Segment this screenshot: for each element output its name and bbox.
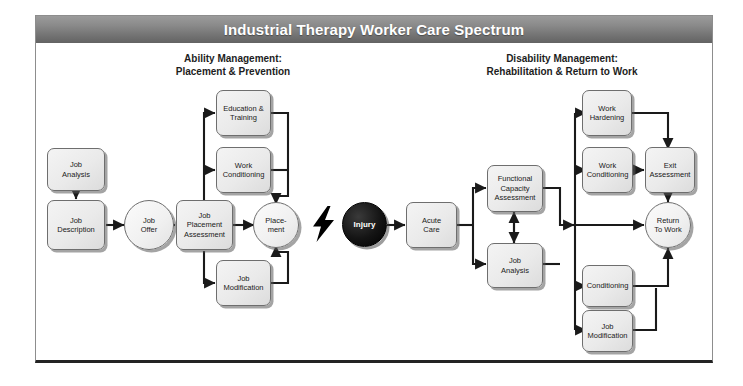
node-acute-care-label: AcuteCare xyxy=(420,216,443,235)
disability-management-line1: Disability Management: xyxy=(432,52,692,65)
node-job-analysis-right[interactable]: JobAnalysis xyxy=(487,243,543,288)
node-functional-capacity-assessment[interactable]: FunctionalCapacityAssessment xyxy=(487,165,543,212)
node-job-offer-label: JobOffer xyxy=(139,216,160,235)
node-conditioning-label: Conditioning xyxy=(585,281,631,291)
disability-management-line2: Rehabilitation & Return to Work xyxy=(432,65,692,78)
ability-management-line2: Placement & Prevention xyxy=(118,65,348,78)
node-job-description[interactable]: JobDescription xyxy=(47,200,105,250)
node-acute-care[interactable]: AcuteCare xyxy=(406,202,457,248)
node-job-modification-left-label: JobModification xyxy=(221,274,265,293)
node-exit-assessment-label: ExitAssessment xyxy=(648,161,693,180)
section-header-ability-management: Ability Management: Placement & Preventi… xyxy=(118,52,348,78)
lightning-bolt-icon xyxy=(310,206,338,242)
node-work-hardening[interactable]: WorkHardening xyxy=(582,90,632,136)
page-title: Industrial Therapy Worker Care Spectrum xyxy=(36,16,712,43)
node-return-to-work-label: ReturnTo Work xyxy=(652,216,683,235)
node-functional-capacity-assessment-label: FunctionalCapacityAssessment xyxy=(493,174,538,203)
node-injury[interactable]: Injury xyxy=(342,202,387,247)
node-exit-assessment[interactable]: ExitAssessment xyxy=(645,147,695,193)
node-work-conditioning-right-label: WorkConditioning xyxy=(585,161,631,180)
node-injury-label: Injury xyxy=(352,220,378,230)
diagram-canvas: Industrial Therapy Worker Care Spectrum … xyxy=(0,0,743,386)
node-job-modification-right[interactable]: JobModification xyxy=(582,310,633,352)
node-job-analysis-left-label: JobAnalysis xyxy=(60,160,92,179)
node-education-training[interactable]: Education &Training xyxy=(216,90,271,136)
ability-management-line1: Ability Management: xyxy=(118,52,348,65)
node-placement-label: Place-ment xyxy=(263,216,288,235)
node-work-hardening-label: WorkHardening xyxy=(588,104,627,123)
node-job-analysis-right-label: JobAnalysis xyxy=(499,256,531,275)
node-work-conditioning-right[interactable]: WorkConditioning xyxy=(582,147,633,193)
node-job-offer[interactable]: JobOffer xyxy=(124,200,174,250)
node-placement[interactable]: Place-ment xyxy=(253,202,299,248)
node-job-description-label: JobDescription xyxy=(55,216,97,235)
node-work-conditioning-left-label: WorkConditioning xyxy=(221,161,267,180)
node-education-training-label: Education &Training xyxy=(221,104,265,123)
node-job-placement-assessment[interactable]: JobPlacementAssessment xyxy=(176,200,233,250)
node-job-placement-assessment-label: JobPlacementAssessment xyxy=(182,211,227,240)
node-job-analysis-left[interactable]: JobAnalysis xyxy=(47,148,105,191)
node-job-modification-right-label: JobModification xyxy=(585,322,629,341)
section-header-disability-management: Disability Management: Rehabilitation & … xyxy=(432,52,692,78)
node-job-modification-left[interactable]: JobModification xyxy=(216,260,271,306)
node-conditioning[interactable]: Conditioning xyxy=(582,265,633,307)
node-return-to-work[interactable]: ReturnTo Work xyxy=(645,202,691,248)
node-work-conditioning-left[interactable]: WorkConditioning xyxy=(216,147,271,193)
